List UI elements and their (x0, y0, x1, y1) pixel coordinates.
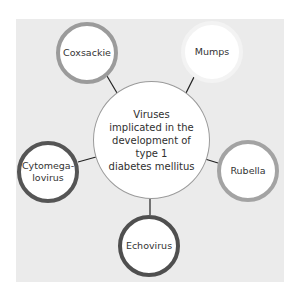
connector-coxsackie (107, 76, 117, 93)
connector-cytomegalovirus (78, 157, 96, 162)
center-node-label: Viruses implicated in the development of… (109, 108, 195, 173)
node-cytomegalovirus-label: Cytomega- lovirus (22, 160, 74, 184)
node-echovirus: Echovirus (118, 215, 180, 277)
node-echovirus-label: Echovirus (126, 240, 172, 252)
node-cytomegalovirus: Cytomega- lovirus (17, 141, 79, 203)
connector-mumps (186, 77, 194, 93)
node-rubella-label: Rubella (230, 165, 265, 177)
connector-rubella (205, 159, 218, 163)
node-rubella: Rubella (217, 140, 279, 202)
node-coxsackie-label: Coxsackie (63, 47, 111, 59)
center-node: Viruses implicated in the development of… (93, 81, 210, 199)
node-mumps-label: Mumps (195, 46, 229, 58)
node-mumps: Mumps (181, 21, 243, 83)
node-coxsackie: Coxsackie (56, 22, 118, 84)
